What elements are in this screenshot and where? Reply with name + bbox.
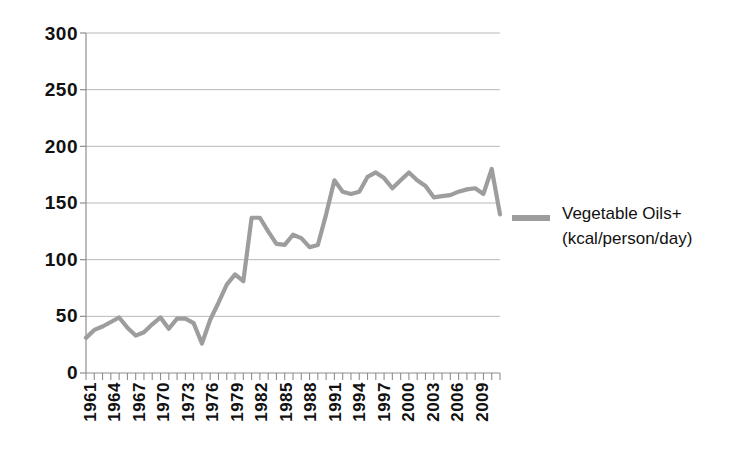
- x-axis-tick-label: 1970: [155, 382, 172, 422]
- x-axis-tick-label: 1991: [327, 382, 344, 422]
- x-axis-tick-label: 1988: [302, 382, 319, 422]
- x-axis-tick-label: 2003: [425, 382, 442, 422]
- x-axis-tick-label: 1979: [229, 382, 246, 422]
- x-axis-tick-label: 1973: [180, 382, 197, 422]
- x-axis-tick-label: 2000: [400, 382, 417, 422]
- legend-line-marker: [510, 211, 552, 225]
- x-axis-tick-label: 1964: [106, 382, 123, 422]
- x-axis-tick-label: 1967: [131, 382, 148, 422]
- vegetable-oils-line-chart: 300 250 200 150 100 50 0 1961 1964 1967 …: [0, 0, 737, 449]
- x-axis-tick-label: 1997: [376, 382, 393, 422]
- x-axis-tick-label: 2006: [449, 382, 466, 422]
- x-axis-tick-label: 1982: [253, 382, 270, 422]
- x-axis-tick-label: 1985: [278, 382, 295, 422]
- data-series-line: [86, 169, 500, 344]
- x-axis-tick-label: 1994: [351, 382, 368, 422]
- legend-label-line1: Vegetable Oils+: [562, 202, 682, 227]
- legend-label-line2: (kcal/person/day): [562, 227, 692, 252]
- x-axis-tick-label: 1976: [204, 382, 221, 422]
- x-axis-tick-label: 1961: [82, 382, 99, 422]
- x-axis-tick-label: 2009: [474, 382, 491, 422]
